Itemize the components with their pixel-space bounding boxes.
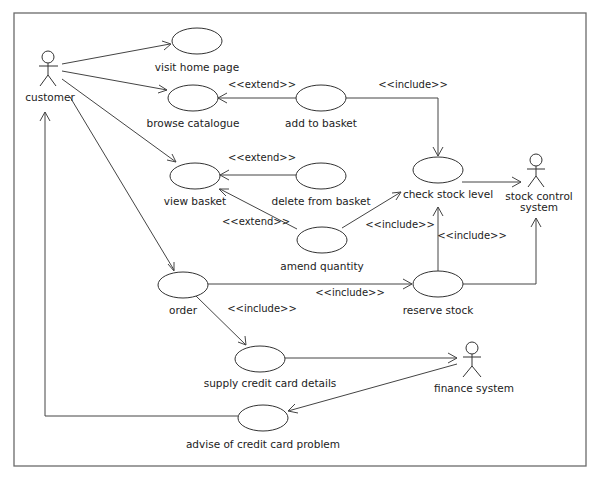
svg-text:order: order — [169, 304, 198, 316]
include-add-to-check — [346, 98, 443, 156]
stereotype-include-order-supply: <<include>> — [227, 303, 297, 314]
stick-figure-icon — [39, 51, 58, 86]
use-case-add-to-basket[interactable]: add to basket — [285, 85, 357, 129]
extend-add-to-browse — [218, 93, 296, 103]
assoc-customer-browse — [62, 71, 167, 93]
use-case-diagram: visit home page browse catalogue add to … — [0, 0, 598, 478]
stereotype-include-order-reserve: <<include>> — [315, 287, 385, 298]
svg-text:reserve stock: reserve stock — [403, 304, 475, 316]
assoc-reserve-to-stock-control — [463, 218, 541, 284]
stereotype-include-reserve-check: <<include>> — [437, 230, 507, 241]
svg-text:amend quantity: amend quantity — [280, 260, 364, 272]
assoc-advise-to-customer — [40, 112, 238, 416]
svg-text:advise of credit card problem: advise of credit card problem — [186, 438, 340, 450]
svg-text:system: system — [520, 201, 558, 213]
actor-finance-system[interactable]: finance system — [434, 342, 514, 394]
svg-text:check stock level: check stock level — [403, 188, 493, 200]
svg-text:finance system: finance system — [434, 382, 514, 394]
use-case-reserve-stock[interactable]: reserve stock — [403, 271, 475, 316]
use-case-view-basket[interactable]: view basket — [164, 163, 226, 207]
extend-delete-to-view — [220, 170, 296, 180]
actor-stock-control-system[interactable]: stock control system — [505, 154, 573, 213]
use-case-supply-credit-card-details[interactable]: supply credit card details — [204, 346, 337, 389]
stick-figure-icon — [463, 342, 481, 377]
svg-text:delete from basket: delete from basket — [271, 195, 370, 207]
use-case-amend-quantity[interactable]: amend quantity — [280, 227, 364, 272]
svg-text:customer: customer — [25, 91, 75, 103]
assoc-check-to-stock-control — [462, 177, 521, 187]
stick-figure-icon — [527, 154, 545, 187]
svg-text:browse catalogue: browse catalogue — [147, 117, 240, 129]
actor-customer[interactable]: customer — [25, 51, 75, 103]
svg-text:add to basket: add to basket — [285, 117, 357, 129]
assoc-supply-to-finance — [285, 353, 457, 363]
use-case-delete-from-basket[interactable]: delete from basket — [271, 163, 370, 207]
use-case-visit-home-page[interactable]: visit home page — [155, 28, 239, 73]
use-case-check-stock-level[interactable]: check stock level — [403, 157, 493, 200]
svg-text:view basket: view basket — [164, 195, 226, 207]
svg-text:visit home page: visit home page — [155, 61, 239, 73]
use-case-browse-catalogue[interactable]: browse catalogue — [147, 85, 240, 129]
stereotype-extend-add: <<extend>> — [228, 79, 296, 90]
stereotype-include-add-check: <<include>> — [378, 79, 448, 90]
use-case-order[interactable]: order — [158, 272, 208, 316]
stereotype-include-amend-check: <<include>> — [365, 219, 435, 230]
stereotype-extend-delete: <<extend>> — [228, 152, 296, 163]
stereotype-extend-amend: <<extend>> — [222, 216, 290, 227]
svg-text:supply credit card details: supply credit card details — [204, 377, 337, 389]
use-case-advise-credit-card-problem[interactable]: advise of credit card problem — [186, 405, 340, 450]
